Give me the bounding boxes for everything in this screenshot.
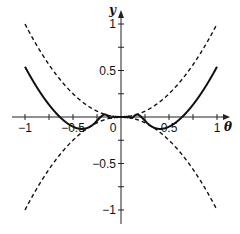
x-tick-label: 0: [110, 121, 117, 135]
x-axis-label: θ: [224, 120, 232, 134]
y-tick-label: 0.5: [99, 64, 116, 78]
y-axis-arrow-icon: [118, 10, 124, 18]
x-tick-label: 1: [214, 121, 221, 135]
plot-svg: −1−0.500.51−1−0.50.51θy: [0, 0, 240, 234]
x-tick-label: −1: [18, 121, 32, 135]
y-tick-label: −0.5: [92, 157, 116, 171]
y-tick-label: −1: [102, 203, 116, 217]
y-axis-label: y: [108, 3, 117, 17]
function-plot: −1−0.500.51−1−0.50.51θy: [0, 0, 240, 234]
y-tick-label: 1: [109, 17, 116, 31]
